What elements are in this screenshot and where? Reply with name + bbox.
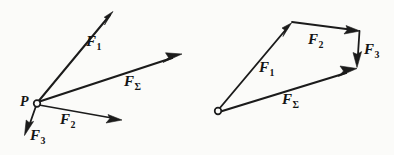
left-label-f1: F1	[86, 34, 101, 49]
left-fsigma-arrowhead	[163, 53, 182, 63]
right-vector-f2	[292, 22, 360, 34]
left-label-f2: F2	[60, 112, 75, 127]
right-label-f2-subscript: 2	[319, 39, 324, 50]
left-panel-group	[25, 12, 183, 136]
left-vector-f2	[39, 105, 122, 123]
left-origin-point-marker	[34, 100, 41, 107]
right-vector-f3	[353, 31, 362, 68]
left-label-f3-subscript: 3	[41, 135, 46, 146]
right-label-fsigma: FΣ	[282, 92, 298, 107]
left-label-f2-subscript: 2	[71, 119, 76, 130]
right-label-f3-subscript: 3	[375, 49, 380, 60]
left-f2-shaft	[39, 105, 112, 118]
left-fsigma-shaft	[38, 58, 172, 102]
right-f3-arrowhead	[353, 52, 362, 68]
left-label-f3: F3	[30, 128, 45, 143]
left-f1-arrowhead	[104, 12, 113, 26]
left-label-f1-subscript: 1	[97, 41, 102, 52]
right-vector-f1	[219, 23, 292, 109]
left-f2-arrowhead	[106, 115, 122, 124]
right-label-fsigma-subscript: Σ	[293, 99, 299, 110]
right-label-f2: F2	[308, 32, 323, 47]
right-fsigma-arrowhead	[339, 66, 358, 77]
right-label-f1: F1	[259, 60, 274, 75]
force-vector-figure: P F1 FΣ F2 F3 F1 F2 F3 FΣ	[0, 0, 394, 155]
left-label-fsigma: FΣ	[124, 74, 140, 89]
right-f1-arrowhead	[282, 23, 292, 37]
figure-canvas	[0, 0, 394, 155]
left-point-p-label: P	[20, 95, 29, 109]
left-label-fsigma-subscript: Σ	[135, 81, 141, 92]
right-label-f3: F3	[364, 42, 379, 57]
right-f1-shaft	[219, 27, 288, 109]
right-origin-point-marker	[215, 108, 222, 115]
left-vector-fsigma	[38, 53, 182, 102]
right-f2-shaft	[292, 22, 350, 30]
right-label-f1-subscript: 1	[270, 67, 275, 78]
